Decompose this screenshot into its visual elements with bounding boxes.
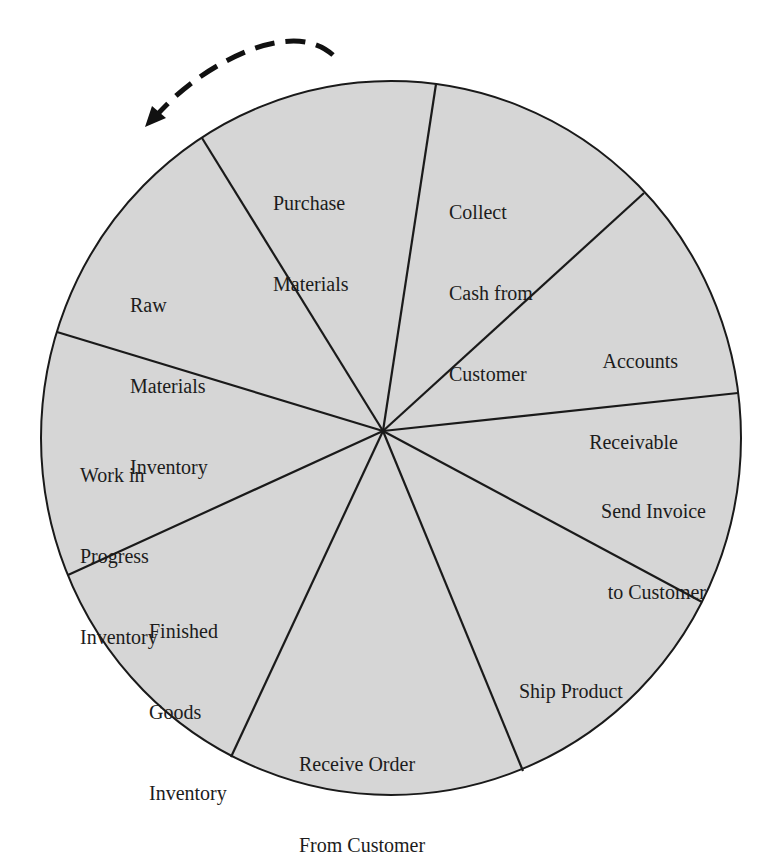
label-line: Materials bbox=[130, 373, 208, 400]
label-line: Cash from bbox=[449, 280, 533, 307]
label-line: Finished bbox=[149, 618, 227, 645]
label-line: Inventory bbox=[80, 624, 158, 651]
label-line: Purchase bbox=[273, 190, 349, 217]
segment-receive-order: Receive Order From Customer bbox=[299, 697, 425, 856]
label-line: Ship Product bbox=[519, 678, 623, 705]
label-line: Collect bbox=[449, 199, 533, 226]
segment-collect-cash: Collect Cash from Customer bbox=[449, 145, 533, 442]
segment-accounts-receivable: Accounts Receivable bbox=[589, 294, 678, 510]
label-line: Receive Order bbox=[299, 751, 425, 778]
segment-work-in-progress-inventory: Work in Progress Inventory bbox=[80, 408, 158, 705]
segment-purchase-materials: Purchase Materials bbox=[273, 136, 349, 352]
label-line: Work in bbox=[80, 462, 158, 489]
label-line: From Customer bbox=[299, 832, 425, 856]
label-line: Raw bbox=[130, 292, 208, 319]
segment-finished-goods-inventory: Finished Goods Inventory bbox=[149, 564, 227, 856]
label-line: Inventory bbox=[149, 780, 227, 807]
label-line: to Customer bbox=[601, 579, 706, 606]
label-line: Receivable bbox=[589, 429, 678, 456]
label-line: Materials bbox=[273, 271, 349, 298]
label-line: Accounts bbox=[589, 348, 678, 375]
label-line: Progress bbox=[80, 543, 158, 570]
label-line: Customer bbox=[449, 361, 533, 388]
label-line: Goods bbox=[149, 699, 227, 726]
